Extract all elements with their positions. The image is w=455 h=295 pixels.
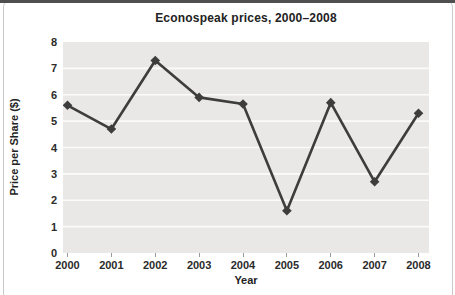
x-tick-mark	[111, 253, 112, 257]
x-tick-label: 2004	[221, 258, 265, 272]
x-tick-label: 2007	[353, 258, 397, 272]
y-tick-label: 4	[28, 141, 57, 155]
x-tick-mark	[374, 253, 375, 257]
y-tick-label: 6	[28, 88, 57, 102]
chart-title: Econospeak prices, 2000–2008	[63, 11, 429, 25]
data-point-markers	[63, 56, 423, 216]
x-tick-label: 2006	[309, 258, 353, 272]
x-tick-label: 2000	[46, 258, 90, 272]
x-tick-mark	[243, 253, 244, 257]
x-tick-mark	[418, 253, 419, 257]
x-tick-mark	[330, 253, 331, 257]
y-tick-label: 1	[28, 220, 57, 234]
y-tick-label: 7	[28, 61, 57, 75]
x-tick-mark	[286, 253, 287, 257]
line-chart-canvas	[63, 42, 429, 253]
price-series-line	[68, 60, 419, 210]
figure-top-rule	[0, 0, 455, 3]
x-tick-label: 2001	[89, 258, 133, 272]
x-axis-title: Year	[63, 274, 429, 286]
y-tick-label: 5	[28, 114, 57, 128]
data-point-marker	[238, 99, 248, 109]
x-tick-mark	[67, 253, 68, 257]
data-point-marker	[282, 206, 292, 216]
data-point-marker	[63, 101, 72, 111]
x-tick-mark	[199, 253, 200, 257]
figure: Econospeak prices, 2000–2008 Price per S…	[0, 0, 455, 295]
plot-area	[63, 42, 429, 253]
x-tick-label: 2008	[397, 258, 441, 272]
data-point-marker	[326, 98, 336, 108]
x-tick-label: 2005	[265, 258, 309, 272]
gridlines	[63, 68, 429, 226]
y-tick-label: 8	[28, 35, 57, 49]
x-tick-label: 2003	[177, 258, 221, 272]
x-tick-label: 2002	[133, 258, 177, 272]
x-tick-mark	[155, 253, 156, 257]
y-axis-title: Price per Share ($)	[7, 47, 21, 247]
y-tick-label: 3	[28, 167, 57, 181]
y-tick-label: 2	[28, 193, 57, 207]
